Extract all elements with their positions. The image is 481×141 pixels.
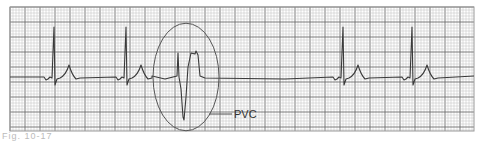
pvc-label: PVC — [234, 108, 257, 120]
figure-caption: Fig. 10-17 — [2, 131, 53, 141]
ecg-strip: PVC — [0, 0, 481, 141]
